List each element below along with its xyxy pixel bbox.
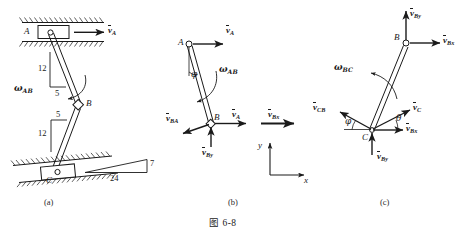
label-axis-x: x [304,176,308,185]
vc-sub-c: C [417,106,421,113]
coordinate-axes [270,143,304,175]
figure-caption: 图 6-8 [209,219,237,229]
label-theta-c: θ [396,114,401,123]
label-va-a: vA [108,26,116,35]
pin-a [48,30,53,35]
label-phi-c: φ [345,117,351,126]
label-vby-c-at-c: vBy [377,152,388,161]
omega-bc-symbol-c: ω [334,62,343,72]
label-vba-b: vBA [166,114,178,123]
vba-sub-b: BA [170,117,178,124]
label-omega-ab-a: ωAB [14,84,33,93]
vby-sub-c-at-b: By [414,12,421,19]
label-incline-run: 24 [110,174,119,183]
label-va-b-at-b: vA [232,110,240,119]
omega-ab-arc-a [68,75,86,99]
omega-ab-symbol-b: ω [219,64,228,74]
label-omega-ab-b: ωAB [219,65,238,74]
label-slope-ab-run: 5 [55,89,59,98]
panel-c-drawing [340,11,440,155]
label-slope-bc-rise: 12 [38,129,47,138]
panel-a-drawing [11,18,147,188]
label-vcb-c: vCB [313,103,325,112]
panel-label-c: (c) [380,198,389,207]
label-point-c-c: C [362,133,368,142]
incline-slope-triangle [85,160,147,173]
label-vby-c-at-b: vBy [410,9,421,18]
va-sub-b-at-b: A [236,113,240,120]
pin-a-b [186,41,192,47]
label-point-b-b: B [214,113,220,122]
arrow-vba-b [183,125,209,134]
label-point-b-c: B [394,33,400,42]
omega-bc-arc-c [371,73,397,99]
label-va-b-at-a: vA [226,26,234,35]
pin-c [55,169,60,174]
vbx-sub-c-at-c: Bx [410,127,417,134]
omega-ab-symbol-a: ω [14,83,23,93]
va-sub-a: A [112,29,116,36]
label-incline-rise: 7 [150,159,154,168]
vbx-sub-c-at-b: Bx [447,39,454,46]
va-sub-b-at-a: A [230,29,234,36]
phi-arc-c [352,121,356,130]
label-point-c-a: C [46,176,52,185]
pin-b-c [403,40,409,46]
vcb-sub-c: CB [317,106,325,113]
vbx-sub-transfer: Bx [272,113,279,120]
label-slope-bc-run: 5 [56,110,60,119]
label-vc-c: vC [413,103,421,112]
vby-sub-b: By [206,151,213,158]
omega-ab-sub-b: AB [228,68,238,75]
label-vby-b: vBy [202,148,213,157]
label-vbx-transfer: vBx [268,110,279,119]
panel-label-b: (b) [228,198,238,207]
label-omega-bc-c: ωBC [334,63,353,72]
panel-label-a: (a) [44,198,53,207]
label-point-a-b: A [178,38,184,47]
label-phi-b: φ [191,70,197,79]
figure-6-8: A vA 12 5 ωAB B 5 12 C 7 24 (a) A vA φ ω… [0,0,467,242]
label-point-a: A [24,27,30,36]
label-vbx-c-at-c: vBx [406,124,417,133]
omega-ab-sub-a: AB [23,87,33,94]
link-ab [49,33,81,104]
vby-sub-c-at-c: By [381,155,388,162]
label-point-b-a: B [86,99,92,108]
omega-bc-sub-c: BC [343,66,353,73]
label-vbx-c-at-b: vBx [443,36,454,45]
label-slope-ab-rise: 12 [38,64,47,73]
label-axis-y: y [258,141,262,150]
